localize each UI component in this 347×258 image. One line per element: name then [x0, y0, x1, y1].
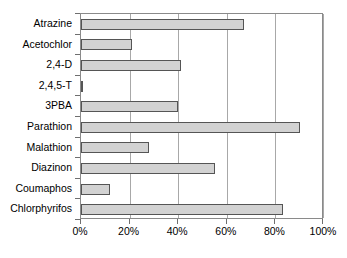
bar-parathion [81, 122, 300, 133]
bar-chlorphyrifos [81, 204, 283, 215]
x-axis-tick-80 [274, 219, 275, 224]
y-axis-label-row: Parathion [0, 116, 76, 137]
bar-row [81, 158, 322, 179]
bar-row [81, 55, 322, 76]
bar-row [81, 35, 322, 56]
bar-row [81, 96, 322, 117]
x-axis-tick-label: 0% [72, 226, 87, 237]
y-axis-label-row: Chlorphyrifos [0, 198, 76, 219]
gridline-100 [323, 14, 324, 218]
y-axis-label: 3PBA [45, 100, 72, 111]
plot-area [80, 13, 323, 219]
y-axis-label-row: Acetochlor [0, 34, 76, 55]
bar-row [81, 76, 322, 97]
bar-chart: AtrazineAcetochlor2,4-D2,4,5-T3PBAParath… [0, 0, 347, 258]
y-axis-label: Malathion [26, 142, 72, 153]
bar-atrazine [81, 19, 244, 30]
bar-3pba [81, 101, 178, 112]
x-axis-tick-20 [129, 219, 130, 224]
bar-diazinon [81, 163, 215, 174]
x-axis-tick-label: 60% [215, 226, 236, 237]
x-axis-tick-100 [322, 219, 323, 224]
x-axis-tick-0 [80, 219, 81, 224]
y-axis-label-row: Diazinon [0, 157, 76, 178]
y-axis-labels: AtrazineAcetochlor2,4-D2,4,5-T3PBAParath… [0, 13, 76, 219]
y-axis-label: Acetochlor [22, 39, 72, 50]
bar-acetochlor [81, 39, 132, 50]
x-axis-tick-label: 100% [310, 226, 337, 237]
bars-layer [81, 14, 322, 218]
y-axis-label: 2,4-D [46, 59, 72, 70]
y-axis-label-row: 3PBA [0, 95, 76, 116]
bar-row [81, 179, 322, 200]
bar-row [81, 117, 322, 138]
x-axis-labels: 0%20%40%60%80%100% [0, 226, 347, 242]
bar-row [81, 199, 322, 220]
x-axis-tick-label: 40% [167, 226, 188, 237]
y-axis-label-row: 2,4-D [0, 54, 76, 75]
bar-row [81, 138, 322, 159]
bar-malathion [81, 142, 149, 153]
y-axis-label: Atrazine [33, 18, 72, 29]
bar-2-4-d [81, 60, 181, 71]
bar-coumaphos [81, 184, 110, 195]
y-axis-label-row: Malathion [0, 137, 76, 158]
y-axis-label-row: Coumaphos [0, 178, 76, 199]
y-axis-label: Parathion [27, 121, 72, 132]
x-axis-tick-60 [226, 219, 227, 224]
x-axis-tick-40 [177, 219, 178, 224]
x-axis-tick-label: 20% [118, 226, 139, 237]
x-axis-ticks [80, 219, 323, 224]
y-axis-label: Coumaphos [15, 183, 72, 194]
bar-2-4-5-t [81, 81, 83, 92]
y-axis-label-row: 2,4,5-T [0, 75, 76, 96]
y-axis-label: Chlorphyrifos [10, 203, 72, 214]
y-axis-label: Diazinon [31, 162, 72, 173]
bar-row [81, 14, 322, 35]
x-axis-tick-label: 80% [264, 226, 285, 237]
y-axis-label-row: Atrazine [0, 13, 76, 34]
y-axis-label: 2,4,5-T [39, 80, 72, 91]
